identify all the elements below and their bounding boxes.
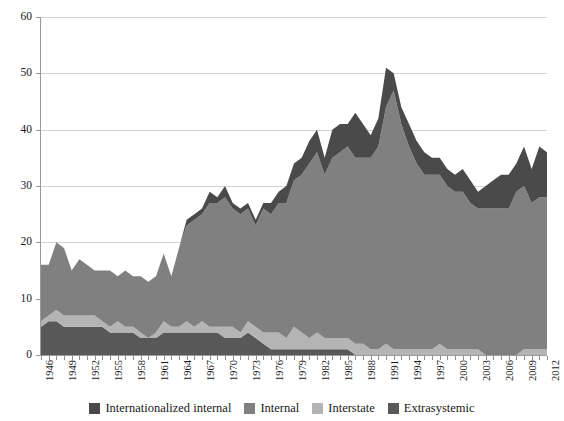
- legend-swatch-icon: [89, 403, 100, 414]
- legend-label: Interstate: [328, 402, 375, 415]
- legend-swatch-icon: [388, 403, 399, 414]
- x-axis-label-1979: 1979: [298, 360, 309, 381]
- x-axis-label-1976: 1976: [275, 360, 286, 381]
- legend-label: Extrasystemic: [404, 402, 475, 415]
- stacked-area-plot: [41, 17, 547, 355]
- x-axis-labels: 1946194919521955195819611964196719701973…: [41, 360, 547, 400]
- x-axis-label-1961: 1961: [160, 360, 171, 381]
- x-axis-label-1967: 1967: [206, 360, 217, 381]
- x-axis-label-1997: 1997: [436, 360, 447, 381]
- x-axis-label-2000: 2000: [459, 360, 470, 381]
- x-axis-label-1958: 1958: [137, 360, 148, 381]
- x-axis-label-1991: 1991: [390, 360, 401, 381]
- x-tick-2012: [547, 356, 548, 360]
- x-axis-label-1985: 1985: [344, 360, 355, 381]
- x-axis-label-2003: 2003: [482, 360, 493, 381]
- y-axis-label-10: 10: [6, 293, 32, 305]
- y-axis-label-0: 0: [6, 349, 32, 361]
- x-axis-label-1988: 1988: [367, 360, 378, 381]
- chart-figure: 0102030405060 19461949195219551958196119…: [0, 0, 564, 421]
- y-axis-label-20: 20: [6, 236, 32, 248]
- x-axis-label-2006: 2006: [505, 360, 516, 381]
- x-axis-label-1955: 1955: [114, 360, 125, 381]
- area-series-internal: [41, 90, 547, 355]
- x-axis-label-1946: 1946: [45, 360, 56, 381]
- x-axis-label-1952: 1952: [91, 360, 102, 381]
- legend-label: Internationalized internal: [105, 402, 231, 415]
- legend-swatch-icon: [312, 403, 323, 414]
- y-axis-label-40: 40: [6, 124, 32, 136]
- x-axis-label-1949: 1949: [68, 360, 79, 381]
- x-axis-label-1994: 1994: [413, 360, 424, 381]
- y-axis-label-50: 50: [6, 67, 32, 79]
- legend-item-interstate: Interstate: [312, 402, 375, 415]
- chart-legend: Internationalized internalInternalInters…: [0, 398, 564, 418]
- legend-item-internationalized-internal: Internationalized internal: [89, 402, 231, 415]
- x-axis-label-2012: 2012: [551, 360, 562, 381]
- x-axis-label-1973: 1973: [252, 360, 263, 381]
- x-axis-label-1970: 1970: [229, 360, 240, 381]
- legend-item-internal: Internal: [244, 402, 299, 415]
- legend-swatch-icon: [244, 403, 255, 414]
- x-axis-label-1982: 1982: [321, 360, 332, 381]
- legend-item-extrasystemic: Extrasystemic: [388, 402, 475, 415]
- x-axis-label-2009: 2009: [528, 360, 539, 381]
- y-axis-label-30: 30: [6, 180, 32, 192]
- legend-label: Internal: [260, 402, 299, 415]
- y-axis-label-60: 60: [6, 11, 32, 23]
- x-axis-label-1964: 1964: [183, 360, 194, 381]
